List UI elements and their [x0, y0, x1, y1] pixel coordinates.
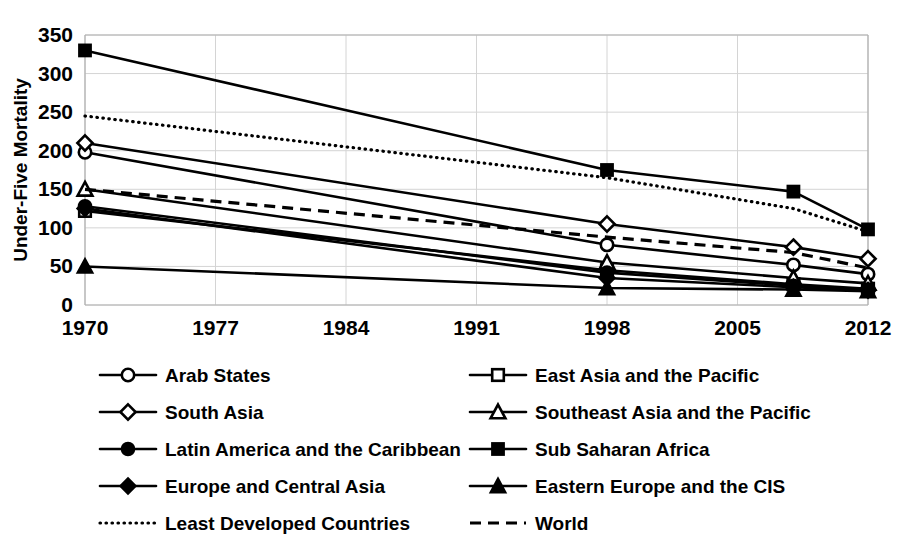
y-tick-label: 100 [38, 216, 73, 239]
legend-item-east-asia-and-the-pacific[interactable]: East Asia and the Pacific [470, 365, 760, 386]
x-tick-label: 1970 [62, 316, 109, 339]
data-point-marker-square-open [492, 369, 504, 381]
data-point-marker-square-filled [79, 45, 91, 57]
legend-item-eastern-europe-and-the-cis[interactable]: Eastern Europe and the CIS [470, 476, 785, 497]
y-tick-label: 250 [38, 100, 73, 123]
x-tick-label: 1991 [453, 316, 500, 339]
y-tick-label: 350 [38, 23, 73, 46]
gridlines [85, 35, 868, 305]
y-tick-label: 150 [38, 177, 73, 200]
y-tick-label: 200 [38, 139, 73, 162]
data-point-marker-diamond-open [860, 251, 875, 266]
data-point-marker-circle-filled [122, 443, 134, 455]
x-tick-label: 1998 [584, 316, 631, 339]
data-point-marker-circle-open [601, 239, 613, 251]
data-point-marker-circle-open [122, 369, 134, 381]
legend-label: Europe and Central Asia [165, 476, 385, 497]
chart-legend: Arab StatesEast Asia and the PacificSout… [100, 365, 811, 534]
legend-item-latin-america-and-the-caribbean[interactable]: Latin America and the Caribbean [100, 439, 461, 460]
data-point-marker-square-filled [492, 443, 504, 455]
legend-label: Eastern Europe and the CIS [535, 476, 785, 497]
x-tick-label: 2012 [845, 316, 892, 339]
legend-label: South Asia [165, 402, 264, 423]
data-point-marker-diamond-open [599, 216, 614, 231]
data-point-marker-square-filled [862, 224, 874, 236]
legend-item-arab-states[interactable]: Arab States [100, 365, 271, 386]
legend-item-sub-saharan-africa[interactable]: Sub Saharan Africa [470, 439, 710, 460]
legend-label: East Asia and the Pacific [535, 365, 760, 386]
legend-label: World [535, 513, 588, 534]
legend-item-world[interactable]: World [470, 513, 588, 534]
data-point-marker-diamond-open [120, 404, 135, 419]
y-axis-title: Under-Five Mortality [10, 78, 31, 262]
legend-item-least-developed-countries[interactable]: Least Developed Countries [100, 513, 410, 534]
chart-container: 050100150200250300350 197019771984199119… [0, 0, 905, 559]
y-tick-label: 0 [61, 293, 73, 316]
under-five-mortality-line-chart: 050100150200250300350 197019771984199119… [0, 0, 905, 559]
x-tick-label: 1984 [323, 316, 370, 339]
legend-item-europe-and-central-asia[interactable]: Europe and Central Asia [100, 476, 385, 497]
legend-item-south-asia[interactable]: South Asia [100, 402, 264, 423]
legend-label: Latin America and the Caribbean [165, 439, 461, 460]
legend-item-southeast-asia-and-the-pacific[interactable]: Southeast Asia and the Pacific [470, 402, 811, 423]
legend-label: Sub Saharan Africa [535, 439, 710, 460]
x-axis-tick-labels: 1970197719841991199820052012 [62, 316, 892, 339]
legend-label: Arab States [165, 365, 271, 386]
x-tick-label: 1977 [192, 316, 239, 339]
y-tick-label: 300 [38, 62, 73, 85]
y-tick-label: 50 [50, 254, 73, 277]
data-point-marker-diamond-filled [120, 478, 135, 493]
y-axis-title-label: Under-Five Mortality [10, 78, 31, 262]
y-axis-tick-labels: 050100150200250300350 [38, 23, 73, 316]
data-point-marker-square-filled [601, 164, 613, 176]
legend-label: Least Developed Countries [165, 513, 410, 534]
data-point-marker-square-filled [788, 186, 800, 198]
x-tick-label: 2005 [714, 316, 761, 339]
legend-label: Southeast Asia and the Pacific [535, 402, 811, 423]
